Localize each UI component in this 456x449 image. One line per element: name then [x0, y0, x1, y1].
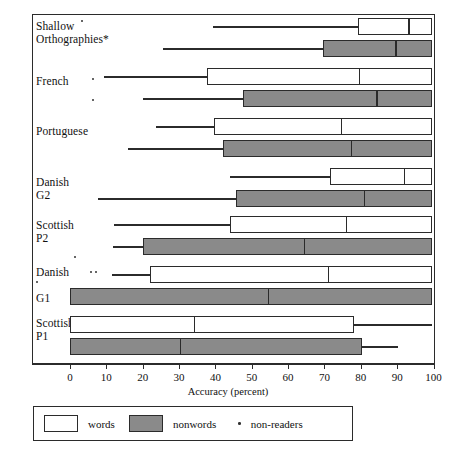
x-tick [252, 364, 253, 369]
median-line [180, 338, 181, 355]
x-tick-label: 60 [268, 371, 308, 383]
median-line [359, 68, 360, 85]
box-nonwords [143, 238, 433, 255]
x-tick-label: 100 [414, 371, 454, 383]
legend-label-words: words [88, 418, 115, 430]
x-tick [434, 364, 435, 369]
x-tick [179, 364, 180, 369]
box-words [330, 168, 433, 185]
x-tick-label: 40 [195, 371, 235, 383]
box-words [214, 118, 433, 135]
box-nonwords [223, 140, 432, 157]
median-line [404, 168, 405, 185]
boxplot-words [0, 168, 456, 185]
boxplot-nonwords [0, 140, 456, 157]
legend-label-nonreaders: non-readers [251, 418, 303, 430]
x-tick [397, 364, 398, 369]
x-tick-label: 20 [123, 371, 163, 383]
x-tick [70, 364, 71, 369]
boxplot-nonwords [0, 90, 456, 107]
whisker-low [114, 224, 230, 226]
median-line [364, 190, 365, 207]
x-tick-label: 70 [304, 371, 344, 383]
whisker-low [128, 148, 223, 150]
x-axis-title: Accuracy (percent) [0, 386, 456, 397]
whisker-low [143, 98, 243, 100]
boxplot-words [0, 316, 456, 333]
whisker-low [230, 176, 330, 178]
box-words [207, 68, 433, 85]
whisker-low [113, 246, 143, 248]
x-tick-label: 80 [341, 371, 381, 383]
median-line [408, 18, 409, 35]
legend-dot-nonreaders [238, 422, 241, 425]
whisker-low [98, 198, 236, 200]
whisker-low [104, 76, 207, 78]
boxplot-words [0, 216, 456, 233]
box-nonwords [323, 40, 433, 57]
x-tick [106, 364, 107, 369]
boxplot-nonwords [0, 190, 456, 207]
x-tick [143, 364, 144, 369]
box-words [358, 18, 433, 35]
x-tick-label: 30 [159, 371, 199, 383]
median-line [194, 316, 195, 333]
median-line [376, 90, 377, 107]
box-nonwords [70, 338, 362, 355]
whisker-low [112, 274, 150, 276]
boxplot-words [0, 68, 456, 85]
legend-swatch-nonwords [129, 415, 163, 432]
whisker-low [156, 126, 214, 128]
box-nonwords [236, 190, 433, 207]
box-words [70, 316, 354, 333]
boxplot-nonwords [0, 40, 456, 57]
box-nonwords [70, 288, 432, 305]
boxplot-words [0, 118, 456, 135]
box-words [150, 266, 432, 283]
legend-swatch-words [44, 415, 78, 432]
x-tick [361, 364, 362, 369]
median-line [328, 266, 329, 283]
whisker-low [213, 26, 358, 28]
legend-label-nonwords: nonwords [173, 418, 216, 430]
x-tick [288, 364, 289, 369]
legend: words nonwords non-readers [33, 406, 353, 441]
whisker-high [354, 324, 433, 326]
median-line [395, 40, 396, 57]
box-nonwords [243, 90, 433, 107]
boxplot-figure: Shallow Orthographies* French Portuguese… [0, 0, 456, 449]
x-tick [324, 364, 325, 369]
boxplot-nonwords [0, 238, 456, 255]
median-line [304, 238, 305, 255]
median-line [268, 288, 269, 305]
boxplot-words [0, 266, 456, 283]
non-reader-dot [74, 256, 76, 258]
median-line [346, 216, 347, 233]
whisker-low [163, 48, 323, 50]
x-tick [215, 364, 216, 369]
boxplot-nonwords [0, 338, 456, 355]
box-words [230, 216, 433, 233]
whisker-high [362, 346, 398, 348]
boxplot-nonwords [0, 288, 456, 305]
x-axis-line [32, 364, 435, 365]
median-line [351, 140, 352, 157]
x-tick-label: 0 [50, 371, 90, 383]
x-tick-label: 50 [232, 371, 272, 383]
x-tick-label: 10 [86, 371, 126, 383]
x-tick-label: 90 [377, 371, 417, 383]
median-line [341, 118, 342, 135]
boxplot-words [0, 18, 456, 35]
